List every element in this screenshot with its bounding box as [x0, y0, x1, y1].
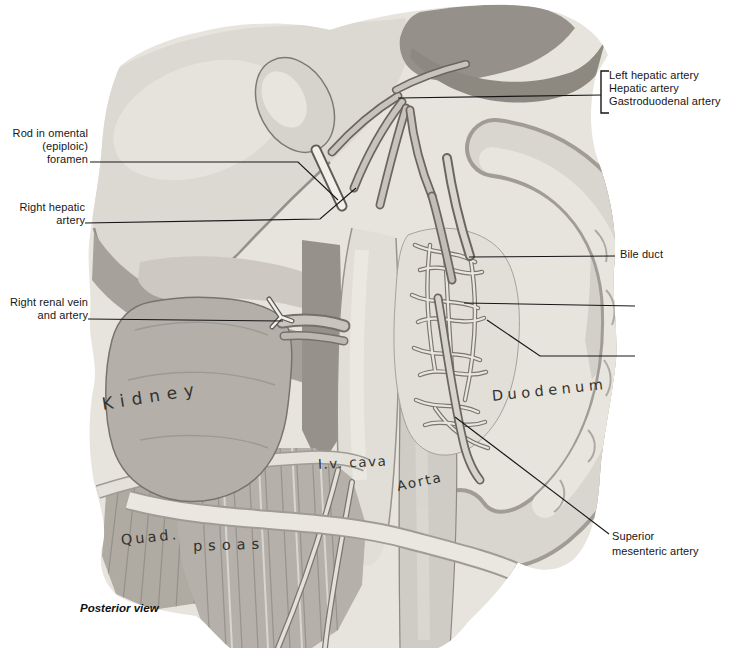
label-bile-duct: Bile duct [620, 248, 663, 261]
label-right-renal-vein-artery: Right renal vein and artery [10, 296, 88, 322]
label-right-hepatic-artery: Right hepatic artery [19, 201, 85, 227]
label-gastroduodenal-artery: Gastroduodenal artery [609, 95, 721, 108]
anatomy-figure: Left hepatic artery Hepatic artery Gastr… [0, 0, 733, 648]
figure-caption: Posterior view [80, 602, 159, 615]
structure-label-psoas: psoas [193, 535, 266, 554]
label-superior-mesenteric-artery: Superior mesenteric artery [612, 529, 699, 559]
bracket-hepatic-group [601, 71, 609, 113]
label-hepatic-artery: Hepatic artery [609, 82, 679, 95]
label-rod-in-omental-foramen: Rod in omental (epiploic) foramen [13, 127, 88, 166]
label-left-hepatic-artery: Left hepatic artery [609, 69, 699, 82]
